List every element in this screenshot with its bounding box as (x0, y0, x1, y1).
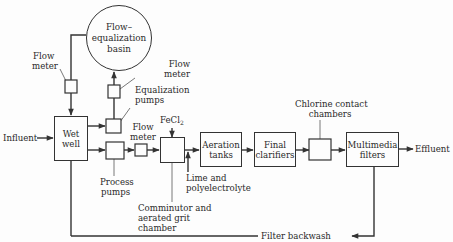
flow-meter-upper-line1: Flow (162, 59, 190, 69)
fecl2-label: FeCl2 (160, 115, 184, 128)
multimedia-filters-box: Multimedia filters (346, 132, 399, 167)
fecl2-base: FeCl (160, 115, 180, 125)
aeration-label-1: Aeration (202, 140, 239, 150)
multimedia-label-2: filters (348, 150, 398, 160)
influent-label: Influent (3, 133, 37, 143)
final-label-1: Final (256, 140, 295, 150)
effluent-label: Effluent (415, 144, 450, 154)
flow-meter-mid-line2: meter (128, 132, 158, 142)
comminutor-line1: Comminutor and (138, 203, 212, 213)
chlorine-line1: Chlorine contact (295, 99, 365, 109)
filter-backwash-label: Filter backwash (260, 231, 332, 241)
flow-equalization-basin: Flow– equalization basin (86, 5, 152, 71)
eq-pumps-line2: pumps (135, 95, 190, 105)
aeration-tanks-box: Aeration tanks (200, 132, 242, 167)
comminutor-label: Comminutor and aerated grit chamber (138, 203, 212, 233)
flow-meter-upper-line2: meter (162, 69, 190, 79)
flow-meter-left-label: Flow meter (32, 51, 58, 71)
flow-meter-mid-label: Flow meter (128, 122, 158, 142)
final-label-2: clarifiers (256, 150, 295, 160)
comminutor-line3: chamber (138, 223, 212, 233)
basin-label-2: equalization (92, 33, 147, 44)
process-pumps-line2: pumps (100, 187, 134, 197)
flow-meter-left-line2: meter (32, 61, 58, 71)
basin-label-1: Flow– (92, 22, 147, 33)
eq-pumps-line1: Equalization (135, 85, 190, 95)
comminutor-line2: aerated grit (138, 213, 212, 223)
comminutor-box (160, 137, 185, 163)
aeration-label-2: tanks (202, 150, 239, 160)
chlorine-contact-label: Chlorine contact chambers (295, 99, 365, 119)
flow-meter-upper-label: Flow meter (162, 59, 190, 79)
wet-well-box: Wet well (54, 116, 88, 161)
process-pumps-label: Process pumps (100, 177, 134, 197)
lime-polyelectrolyte-label: Lime and polyelectrolyte (186, 173, 251, 193)
flow-meter-left-line1: Flow (32, 51, 58, 61)
chlorine-line2: chambers (295, 109, 365, 119)
basin-label-3: basin (92, 44, 147, 55)
lime-line1: Lime and (186, 173, 251, 183)
lime-line2: polyelectrolyte (186, 183, 251, 193)
multimedia-label-1: Multimedia (348, 140, 398, 150)
final-clarifiers-box: Final clarifiers (254, 132, 296, 167)
process-pumps-line1: Process (100, 177, 134, 187)
flow-meter-mid-line1: Flow (128, 122, 158, 132)
wet-well-label-2: well (62, 139, 80, 149)
wet-well-label-1: Wet (62, 129, 80, 139)
equalization-pumps-label: Equalization pumps (135, 85, 190, 105)
fecl2-sub: 2 (180, 119, 184, 126)
